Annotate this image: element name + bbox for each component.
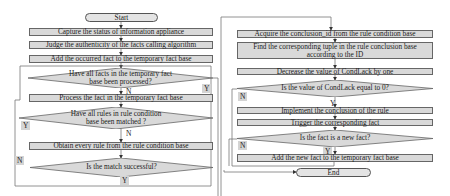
no-label: N (238, 92, 247, 101)
flowchart-canvas: Start Capture the status of information … (0, 0, 450, 196)
find-tuple-step: Find the corresponding tuple in the rule… (237, 42, 433, 59)
decision-text: Is the fact is a new fact? (237, 130, 433, 147)
start-terminal: Start (85, 13, 158, 22)
new-fact-decision: Is the fact is a new fact? (237, 130, 433, 147)
judge-authenticity-step: Judge the authenticity of the facts call… (29, 41, 213, 49)
all-facts-processed-decision: Have all facts in the temporary fact bas… (28, 68, 213, 88)
yes-label: Y (120, 176, 129, 185)
add-new-fact-step: Add the new fact to the temporary fact b… (237, 154, 433, 162)
obtain-rule-step: Obtain every rule from the rule conditio… (29, 142, 213, 150)
no-label: N (238, 141, 247, 150)
capture-status-step: Capture the status of information applia… (29, 28, 213, 36)
add-occurred-fact-step: Add the occurred fact to the temporary f… (29, 55, 213, 63)
decision-text: Is the match successful? (30, 158, 213, 177)
acquire-conclusion-id-step: Acquire the conclusion_id from the rule … (237, 30, 433, 38)
all-rules-matched-decision: Have all rules in rule condition base be… (19, 107, 213, 129)
process-fact-step: Process the fact in the temporary fact b… (29, 94, 213, 102)
condlack-zero-decision: Is the value of CondLack equal to 0? (237, 80, 433, 97)
trigger-fact-step: Trigger the corresponding fact (237, 119, 433, 126)
decision-text: Have all rules in rule condition base be… (19, 107, 213, 129)
no-label: N (124, 129, 133, 138)
yes-label: Y (202, 84, 211, 93)
end-terminal: End (296, 168, 371, 177)
implement-conclusion-step: Implement the conclusion of the rule (237, 107, 433, 114)
decrease-condlack-step: Decrease the value of CondLack by one (237, 68, 433, 75)
decision-text: Is the value of CondLack equal to 0? (237, 80, 433, 97)
match-successful-decision: Is the match successful? (30, 158, 213, 177)
no-label: N (15, 156, 24, 165)
yes-label: Y (21, 121, 30, 130)
decision-text: Have all facts in the temporary fact bas… (28, 68, 213, 88)
